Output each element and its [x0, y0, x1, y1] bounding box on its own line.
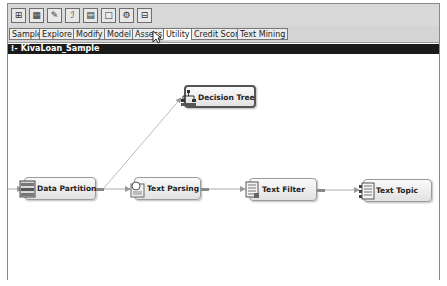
tab-explore[interactable]: Explore: [39, 28, 75, 40]
node-text-filter[interactable]: Text Filter: [249, 178, 317, 201]
modify-icon[interactable]: ✎: [47, 8, 62, 23]
node-text-topic[interactable]: Text Topic: [363, 179, 432, 202]
sample-icon[interactable]: ⊞: [11, 8, 26, 23]
tab-utility[interactable]: Utility: [163, 28, 193, 40]
output-port[interactable]: [96, 188, 104, 191]
node-text-parsing[interactable]: Text Parsing: [134, 177, 201, 200]
diagram-title: ⁝⁃ KivaLoan_Sample: [8, 44, 439, 54]
explore-icon[interactable]: ▦: [29, 8, 44, 23]
output-port[interactable]: [201, 188, 209, 191]
text-topic-icon: [358, 182, 375, 200]
tool-tabs: Sample Explore Modify Model Assess Utili…: [8, 26, 439, 43]
document-icon[interactable]: □: [101, 8, 116, 23]
decision-tree-icon: [180, 89, 197, 107]
grid-icon[interactable]: ⊟: [137, 8, 152, 23]
diagram-canvas[interactable]: Data Partition Decision Tree Text Parsin…: [8, 54, 439, 280]
diagram-icon: ⁝⁃: [11, 44, 18, 53]
text-parsing-icon: [129, 180, 146, 198]
tab-modify[interactable]: Modify: [73, 28, 106, 40]
output-port[interactable]: [317, 189, 325, 192]
assess-icon[interactable]: ▤: [83, 8, 98, 23]
model-icon[interactable]: ℐ: [65, 8, 80, 23]
text-filter-icon: [244, 181, 261, 199]
tab-text-mining[interactable]: Text Mining: [237, 28, 288, 40]
mouse-cursor-icon: [152, 30, 162, 44]
utility-icon[interactable]: ⚙: [119, 8, 134, 23]
node-data-partition[interactable]: Data Partition: [24, 177, 96, 200]
data-partition-icon: [19, 180, 36, 198]
sas-em-window: ⊞ ▦ ✎ ℐ ▤ □ ⚙ ⊟ Sample Explore Modify Mo…: [7, 3, 440, 280]
node-toolbar: ⊞ ▦ ✎ ℐ ▤ □ ⚙ ⊟: [8, 4, 439, 27]
diagram-title-text: KivaLoan_Sample: [21, 44, 100, 53]
tab-model[interactable]: Model: [104, 28, 134, 40]
node-decision-tree[interactable]: Decision Tree: [184, 85, 256, 108]
